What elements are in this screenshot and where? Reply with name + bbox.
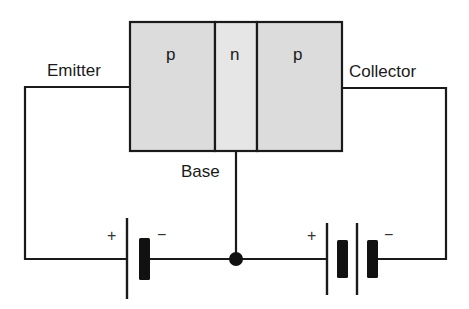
emitter-region-label: p	[166, 46, 175, 63]
emitter-label: Emitter	[47, 62, 101, 79]
collector-p-region	[257, 22, 342, 151]
battery-negative-plate-2	[367, 240, 378, 278]
collector-label: Collector	[349, 63, 416, 80]
collector-base-battery	[327, 223, 378, 295]
base-region-label: n	[230, 46, 239, 63]
base-n-region	[215, 22, 257, 151]
emitter-p-region	[130, 22, 215, 151]
plus-sign-left-battery: +	[107, 228, 116, 244]
minus-sign-right-battery: −	[384, 227, 393, 243]
plus-sign-right-battery: +	[307, 228, 316, 244]
minus-sign-left-battery: −	[157, 227, 166, 243]
collector-region-label: p	[293, 46, 302, 63]
battery-negative-plate	[139, 238, 150, 280]
junction-dot	[229, 252, 243, 266]
battery-negative-plate-1	[337, 240, 348, 278]
base-label: Base	[181, 163, 220, 180]
emitter-base-battery	[127, 218, 150, 299]
